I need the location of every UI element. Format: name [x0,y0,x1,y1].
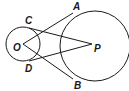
geometry-diagram: A B C D O P [0,0,129,91]
label-D: D [25,63,32,74]
label-C: C [25,15,33,26]
label-P: P [94,43,101,54]
label-B: B [74,80,81,91]
label-O: O [13,42,21,53]
label-A: A [72,1,80,12]
